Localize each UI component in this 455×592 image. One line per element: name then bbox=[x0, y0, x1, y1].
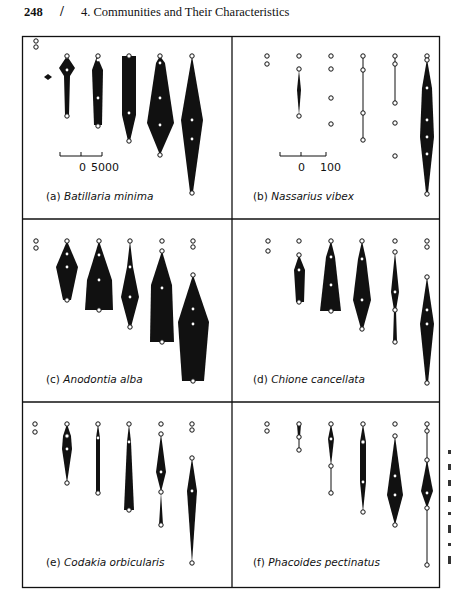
station-column bbox=[265, 54, 269, 66]
station-column bbox=[44, 74, 52, 80]
panel-f-caption: (f) Phacoides pectinatus bbox=[253, 556, 380, 568]
station-marker bbox=[127, 139, 131, 143]
kite-shape bbox=[353, 241, 371, 329]
kite-shape bbox=[391, 252, 399, 342]
station-marker bbox=[34, 39, 38, 43]
station-marker bbox=[329, 239, 333, 243]
station-marker bbox=[329, 464, 333, 468]
station-marker bbox=[65, 434, 69, 438]
station-marker bbox=[297, 253, 301, 257]
figure-frame bbox=[22, 36, 440, 588]
station-marker bbox=[393, 250, 397, 254]
kite-shape bbox=[62, 424, 72, 483]
station-marker bbox=[96, 422, 100, 426]
station-marker bbox=[191, 273, 195, 277]
station-marker bbox=[160, 239, 164, 243]
station-column bbox=[329, 54, 333, 126]
station-marker bbox=[425, 275, 429, 279]
station-column bbox=[320, 239, 341, 313]
kite-shape bbox=[59, 56, 75, 115]
station-marker bbox=[160, 340, 164, 344]
kite-shape bbox=[147, 56, 174, 155]
sample-point bbox=[98, 254, 101, 257]
sample-point bbox=[361, 258, 364, 261]
station-marker bbox=[329, 122, 333, 126]
sample-point bbox=[128, 441, 131, 444]
station-marker bbox=[393, 434, 397, 438]
sample-point bbox=[97, 59, 100, 62]
sample-point bbox=[394, 291, 397, 294]
station-marker bbox=[329, 96, 333, 100]
station-column bbox=[297, 54, 301, 118]
station-marker bbox=[393, 308, 397, 312]
station-marker bbox=[96, 54, 100, 58]
station-marker bbox=[65, 422, 69, 426]
sample-point bbox=[394, 494, 397, 497]
sample-point bbox=[66, 69, 69, 72]
station-marker bbox=[393, 54, 397, 58]
station-marker bbox=[34, 246, 38, 250]
panel-e-caption: (e) Codakia orbicularis bbox=[46, 556, 165, 568]
scale-a-max: 5000 bbox=[91, 161, 119, 174]
kite-shape bbox=[181, 56, 203, 192]
station-marker bbox=[361, 440, 365, 444]
station-marker bbox=[65, 298, 69, 302]
station-column bbox=[56, 239, 78, 302]
station-column bbox=[62, 422, 72, 485]
station-marker bbox=[329, 67, 333, 71]
station-marker bbox=[425, 458, 429, 462]
station-marker bbox=[191, 379, 195, 383]
station-marker bbox=[297, 448, 301, 452]
panel-c bbox=[34, 239, 209, 383]
station-marker bbox=[265, 54, 269, 58]
station-column bbox=[59, 54, 75, 118]
station-column bbox=[147, 54, 174, 157]
station-marker bbox=[297, 114, 301, 118]
station-marker bbox=[297, 435, 301, 439]
station-marker bbox=[33, 430, 37, 434]
sample-point bbox=[159, 62, 162, 65]
sample-point bbox=[128, 112, 131, 115]
station-column bbox=[420, 54, 434, 196]
station-marker bbox=[33, 422, 37, 426]
sample-point bbox=[160, 471, 163, 474]
station-marker bbox=[190, 422, 194, 426]
sample-point bbox=[426, 87, 429, 90]
station-column bbox=[85, 239, 113, 312]
station-marker bbox=[393, 101, 397, 105]
station-marker bbox=[425, 245, 429, 249]
station-marker bbox=[158, 54, 162, 58]
sample-point bbox=[426, 153, 429, 156]
station-marker bbox=[329, 491, 333, 495]
panel-d-caption: (d) Chione cancellata bbox=[253, 373, 365, 385]
scale-bar-b bbox=[280, 152, 326, 156]
station-marker bbox=[361, 422, 365, 426]
sample-point bbox=[191, 490, 194, 493]
station-marker bbox=[160, 249, 164, 253]
station-marker bbox=[361, 68, 365, 72]
station-marker bbox=[266, 239, 270, 243]
station-marker bbox=[361, 510, 365, 514]
scale-a-zero: 0 bbox=[79, 161, 86, 174]
sample-point bbox=[191, 119, 194, 122]
station-marker bbox=[265, 422, 269, 426]
kite-shape bbox=[85, 241, 113, 310]
station-column bbox=[34, 39, 38, 49]
scale-b-max: 100 bbox=[320, 161, 341, 174]
station-column bbox=[121, 239, 139, 329]
station-marker bbox=[159, 490, 163, 494]
sample-point bbox=[66, 266, 69, 269]
kite-diagram-figure: 0 5000 0 100 (a) Batillaria minima (b) N… bbox=[0, 0, 455, 592]
station-marker bbox=[65, 54, 69, 58]
sample-point bbox=[330, 284, 333, 287]
station-marker bbox=[190, 54, 194, 58]
station-marker bbox=[190, 428, 194, 432]
sample-point bbox=[161, 287, 164, 290]
sample-point bbox=[330, 256, 333, 259]
station-column bbox=[360, 422, 366, 514]
station-marker bbox=[159, 422, 163, 426]
station-marker bbox=[65, 114, 69, 118]
station-column bbox=[92, 54, 103, 128]
station-marker bbox=[425, 429, 429, 433]
station-column bbox=[96, 422, 100, 495]
